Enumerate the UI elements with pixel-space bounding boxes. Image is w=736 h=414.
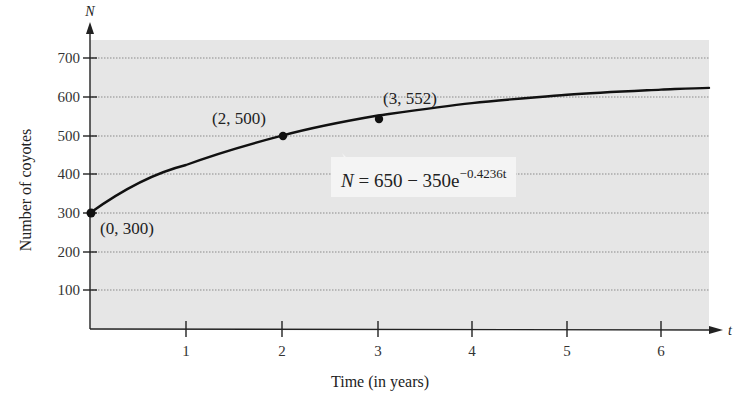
point-label: (3, 552) [383,89,437,108]
coyote-population-chart: 700 600 500 400 300 200 100 1 2 3 4 5 6 … [0,0,736,414]
x-tick-label: 5 [563,343,571,359]
y-tick-label: 500 [58,128,81,144]
y-tick-label: 300 [58,205,81,221]
point-label: (2, 500) [212,109,266,128]
equation-callout: N = 650 − 350e​−0.4236t [331,153,516,197]
x-axis-variable: t [728,323,733,338]
point-label: (0, 300) [100,219,154,238]
data-point [375,115,383,123]
x-tick-label: 2 [278,343,286,359]
y-axis-arrow-icon [86,22,94,34]
y-axis-title: Number of coyotes [17,129,35,252]
y-tick-label: 600 [58,89,81,105]
y-tick-label: 200 [58,244,81,260]
y-tick-label: 100 [58,282,81,298]
y-tick-label: 700 [58,50,81,66]
data-point [87,209,96,218]
x-tick-label: 4 [468,343,476,359]
data-point [279,132,287,140]
y-tick-labels: 700 600 500 400 300 200 100 [58,50,81,298]
x-axis-title: Time (in years) [331,373,429,391]
x-tick-labels: 1 2 3 4 5 6 [182,343,665,359]
x-tick-label: 1 [182,343,190,359]
x-axis-arrow-icon [709,326,723,334]
y-tick-label: 400 [58,166,81,182]
y-axis-variable: N [84,4,95,19]
x-tick-label: 3 [374,343,382,359]
x-tick-label: 6 [657,343,665,359]
